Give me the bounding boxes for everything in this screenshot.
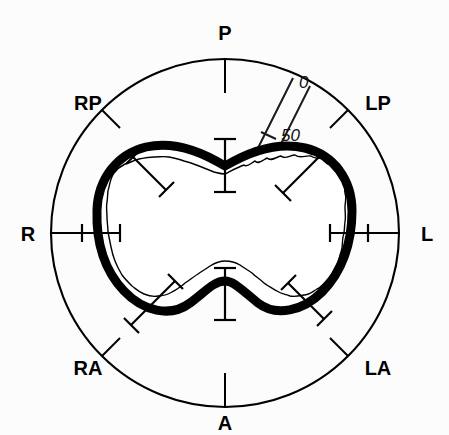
polar-diagram-figure: 0 50 100 xyxy=(0,0,449,435)
tick-RP xyxy=(102,110,120,128)
tick-RA xyxy=(102,338,120,356)
direction-label-A: A xyxy=(218,412,232,434)
direction-label-P: P xyxy=(218,22,231,44)
direction-label-RP: RP xyxy=(74,92,102,114)
tick-LA xyxy=(330,338,348,356)
direction-label-LA: LA xyxy=(365,357,392,379)
polar-diagram-canvas: 0 50 100 xyxy=(0,0,449,435)
direction-label-LP: LP xyxy=(365,92,391,114)
direction-label-RA: RA xyxy=(74,357,103,379)
scale-label-0: 0 xyxy=(299,73,309,92)
direction-label-L: L xyxy=(421,223,433,245)
tick-LP xyxy=(330,110,348,128)
direction-label-R: R xyxy=(21,223,36,245)
